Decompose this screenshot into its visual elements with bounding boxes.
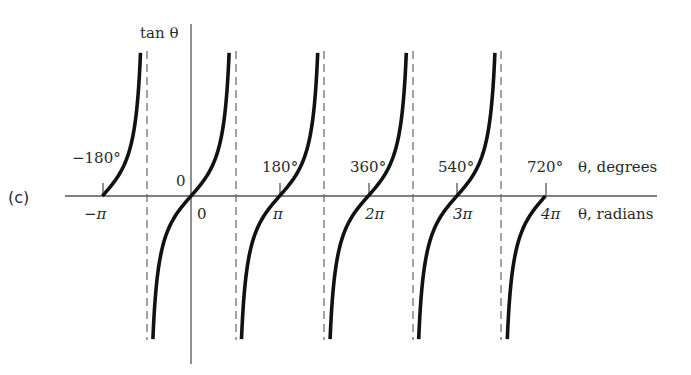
- tangent-branch: [102, 53, 140, 196]
- tick-label-rad: −π: [84, 205, 108, 223]
- tick-label-rad: 4π: [540, 205, 562, 223]
- tick-label-rad: π: [272, 205, 284, 223]
- origin-label-below: 0: [197, 205, 207, 223]
- tick-label-deg: 180°: [262, 158, 298, 176]
- y-axis-label: tan θ: [140, 24, 178, 42]
- tangent-graph: tan θ (c) 0 0 −180° 180° 360° 540° 720° …: [0, 0, 691, 375]
- tangent-branch: [507, 196, 545, 339]
- tick-label-deg: 720°: [527, 158, 563, 176]
- x-axis-label-radians: θ, radians: [578, 205, 653, 223]
- tick-label-deg: 540°: [438, 158, 474, 176]
- origin-label-above: 0: [176, 172, 186, 190]
- tick-label-rad: 2π: [364, 205, 386, 223]
- tick-label-deg: −180°: [72, 149, 121, 167]
- tick-label-rad: 3π: [453, 205, 474, 223]
- panel-label: (c): [8, 188, 29, 207]
- x-axis-label-degrees: θ, degrees: [578, 158, 657, 176]
- tick-label-deg: 360°: [350, 158, 386, 176]
